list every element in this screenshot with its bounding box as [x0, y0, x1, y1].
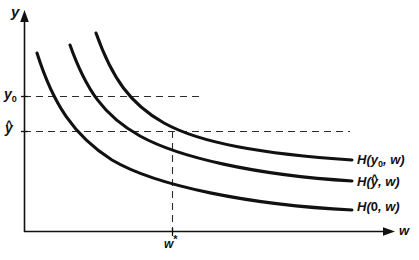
curve-label-2-tail: , w): [378, 199, 400, 214]
tick-label-wstar-base: w: [164, 237, 173, 251]
tick-label-y0-base: y: [4, 86, 12, 102]
curve-label-H-y0-w: H(y0, w): [357, 153, 405, 166]
curve-label-H-yhat-w: H(^y, w): [357, 174, 400, 188]
x-axis-group: [24, 227, 395, 236]
curve-label-0-prefix: H(: [357, 152, 371, 167]
curve-label-1-arg-hat: ^: [371, 173, 378, 185]
tick-label-y0-subscript: 0: [12, 94, 17, 104]
curve-label-1-arg-wrap: ^y: [371, 174, 378, 188]
tick-label-yhat-wrap: ^y: [5, 120, 13, 135]
curve-label-0-arg: y: [371, 152, 378, 167]
tick-label-yhat: ^y: [5, 120, 13, 135]
y-axis-arrowhead: [20, 10, 29, 22]
x-axis-arrowhead: [383, 227, 395, 236]
diagram-svg: [0, 0, 419, 260]
x-axis-label: w: [399, 224, 409, 237]
curve-label-2-arg: 0: [371, 199, 378, 214]
curve-label-0-tail: , w): [383, 152, 405, 167]
tick-label-y0: y0: [4, 87, 17, 101]
tick-label-yhat-hat: ^: [6, 119, 13, 131]
tick-label-wstar: w*: [164, 238, 178, 250]
y-axis-label: y: [11, 4, 19, 19]
curve-label-2-prefix: H(: [357, 199, 371, 214]
curve-label-0-arg-subscript: 0: [378, 159, 383, 169]
curve-label-H-0-w: H(0, w): [357, 200, 400, 213]
curve-label-1-tail: , w): [378, 174, 400, 189]
tick-label-wstar-asterisk: *: [173, 233, 177, 245]
curve-label-1-prefix: H(: [357, 174, 371, 189]
y-axis-group: [20, 10, 29, 232]
figure-canvas: y w y0 ^y w* H(y0, w) H(^y, w) H(0, w): [0, 0, 419, 260]
